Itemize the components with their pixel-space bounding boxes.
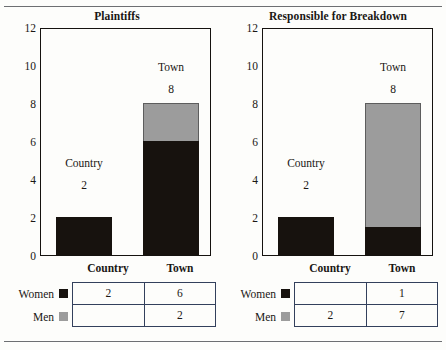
legend-swatch-men-icon (281, 312, 290, 321)
bar-annotation-country: Country 2 (43, 157, 125, 191)
table-row: 2 (73, 304, 215, 326)
cell-women-town: 6 (144, 283, 216, 304)
column-header-town: Town (144, 262, 216, 274)
table-column-headers: Country Town (72, 262, 216, 274)
legend-entry-men: Men (226, 305, 294, 328)
chart-panel-responsible-for-breakdown: Responsible for Breakdown 12 10 8 6 4 2 … (226, 10, 438, 335)
legend-swatch-women-icon (59, 289, 68, 298)
bar-segment-women (365, 227, 421, 255)
cell-men-town: 7 (366, 305, 438, 326)
y-tick-6: 6 (236, 137, 258, 149)
y-tick-4: 4 (236, 175, 258, 187)
page-rule-bottom (4, 341, 442, 342)
bar-town (143, 103, 199, 255)
legend-swatch-men-icon (59, 312, 68, 321)
bar-segment-women (143, 141, 199, 255)
y-tick-2: 2 (14, 213, 36, 225)
data-table: 1 2 7 (294, 282, 438, 327)
legend-row-labels: Women Men (226, 282, 294, 328)
legend-data-table: Country Town Women Men 1 2 7 (226, 262, 438, 334)
row-header-men: Men (255, 311, 276, 323)
cell-men-country: 2 (295, 305, 366, 326)
y-tick-12: 12 (236, 23, 258, 35)
column-header-town: Town (366, 262, 438, 274)
bar-country (56, 217, 112, 255)
legend-entry-men: Men (4, 305, 72, 328)
table-column-headers: Country Town (294, 262, 438, 274)
data-table: 2 6 2 (72, 282, 216, 327)
page-rule-top (4, 6, 442, 7)
bar-annotation-country: Country 2 (265, 157, 347, 191)
chart-panel-plaintiffs: Plaintiffs 12 10 8 6 4 2 0 Country 2 Tow… (4, 10, 216, 335)
column-header-country: Country (72, 262, 144, 274)
bar-segment-women (56, 217, 112, 255)
y-tick-12: 12 (14, 23, 36, 35)
legend-swatch-women-icon (281, 289, 290, 298)
y-tick-10: 10 (14, 61, 36, 73)
cell-men-town: 2 (144, 305, 216, 326)
table-row: 2 6 (73, 283, 215, 304)
plot-area: 12 10 8 6 4 2 0 Country 2 Town 8 (262, 28, 433, 256)
table-row: 1 (295, 283, 437, 304)
chart-title: Responsible for Breakdown (238, 10, 438, 22)
cell-men-country (73, 305, 144, 326)
chart-title: Plaintiffs (18, 10, 216, 22)
bar-segment-men (143, 103, 199, 141)
legend-row-labels: Women Men (4, 282, 72, 328)
cell-women-country: 2 (73, 283, 144, 304)
legend-entry-women: Women (226, 282, 294, 305)
table-row: 2 7 (295, 304, 437, 326)
y-tick-8: 8 (236, 99, 258, 111)
bar-country (278, 217, 334, 255)
bar-annotation-town: Town 8 (130, 61, 212, 95)
row-header-men: Men (33, 311, 54, 323)
y-tick-4: 4 (14, 175, 36, 187)
cell-women-country (295, 283, 366, 304)
column-header-country: Country (294, 262, 366, 274)
bar-annotation-town: Town 8 (352, 61, 434, 95)
legend-entry-women: Women (4, 282, 72, 305)
y-tick-8: 8 (14, 99, 36, 111)
cell-women-town: 1 (366, 283, 438, 304)
y-tick-10: 10 (236, 61, 258, 73)
row-header-women: Women (19, 288, 54, 300)
legend-data-table: Country Town Women Men 2 6 2 (4, 262, 216, 334)
row-header-women: Women (241, 288, 276, 300)
bar-town (365, 103, 421, 255)
bar-segment-men (365, 103, 421, 227)
y-tick-6: 6 (14, 137, 36, 149)
plot-area: 12 10 8 6 4 2 0 Country 2 Town 8 (40, 28, 211, 256)
y-tick-2: 2 (236, 213, 258, 225)
bar-segment-men (278, 217, 334, 255)
